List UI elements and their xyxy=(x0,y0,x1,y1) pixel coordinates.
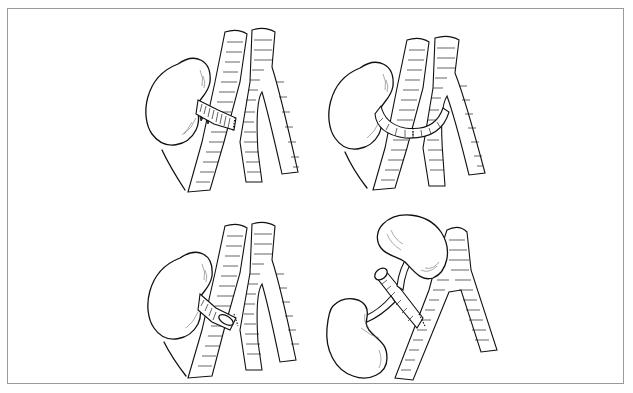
kidney xyxy=(329,62,393,149)
illustration-aortic-patch-anastomosis xyxy=(140,218,310,383)
upper-kidney xyxy=(377,215,447,279)
figure-frame xyxy=(7,8,624,384)
panel-top-left xyxy=(140,22,310,202)
panel-bottom-right xyxy=(325,210,505,385)
panel-top-right xyxy=(325,28,505,203)
illustration-looped-vessel-anastomosis xyxy=(325,28,505,203)
illustration-end-to-side-anastomosis xyxy=(140,22,310,202)
lower-renal-artery xyxy=(365,296,395,322)
panel-bottom-left xyxy=(140,218,310,383)
iliac-vessels xyxy=(373,36,485,190)
illustration-en-bloc-dual-kidneys xyxy=(325,210,505,385)
